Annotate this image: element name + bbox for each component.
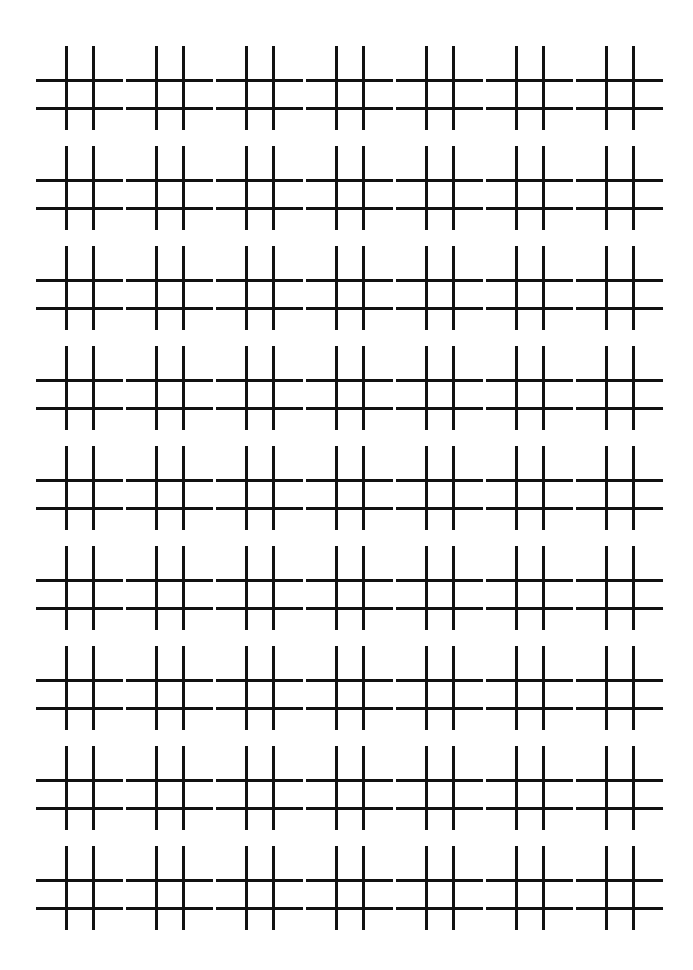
hash-vertical-stroke-1 xyxy=(605,246,608,330)
hash-vertical-stroke-2 xyxy=(362,446,365,530)
hash-vertical-stroke-2 xyxy=(542,446,545,530)
hash-horizontal-stroke-1 xyxy=(486,79,573,82)
hash-vertical-stroke-1 xyxy=(245,146,248,230)
hash-horizontal-stroke-2 xyxy=(576,607,663,610)
hash-horizontal-stroke-1 xyxy=(306,479,393,482)
hash-horizontal-stroke-2 xyxy=(576,407,663,410)
hash-vertical-stroke-1 xyxy=(425,346,428,430)
hash-glyph xyxy=(396,546,483,630)
hash-glyph xyxy=(36,346,123,430)
hash-vertical-stroke-1 xyxy=(605,146,608,230)
hash-horizontal-stroke-2 xyxy=(306,107,393,110)
hash-horizontal-stroke-1 xyxy=(306,179,393,182)
hash-horizontal-stroke-1 xyxy=(576,79,663,82)
hash-vertical-stroke-2 xyxy=(182,446,185,530)
hash-horizontal-stroke-1 xyxy=(396,179,483,182)
pattern-canvas xyxy=(0,0,693,970)
hash-horizontal-stroke-2 xyxy=(306,807,393,810)
hash-vertical-stroke-1 xyxy=(425,446,428,530)
hash-horizontal-stroke-2 xyxy=(486,807,573,810)
hash-vertical-stroke-2 xyxy=(92,146,95,230)
hash-vertical-stroke-2 xyxy=(272,646,275,730)
hash-horizontal-stroke-2 xyxy=(306,307,393,310)
hash-vertical-stroke-1 xyxy=(65,246,68,330)
hash-vertical-stroke-1 xyxy=(65,146,68,230)
hash-glyph xyxy=(126,46,213,130)
hash-vertical-stroke-2 xyxy=(542,546,545,630)
hash-horizontal-stroke-1 xyxy=(396,679,483,682)
hash-vertical-stroke-2 xyxy=(272,46,275,130)
hash-glyph xyxy=(576,846,663,930)
hash-horizontal-stroke-2 xyxy=(486,107,573,110)
hash-horizontal-stroke-2 xyxy=(126,607,213,610)
hash-horizontal-stroke-1 xyxy=(126,279,213,282)
hash-glyph xyxy=(126,646,213,730)
hash-glyph xyxy=(306,446,393,530)
hash-horizontal-stroke-1 xyxy=(306,379,393,382)
hash-vertical-stroke-2 xyxy=(182,646,185,730)
hash-glyph xyxy=(486,346,573,430)
hash-horizontal-stroke-2 xyxy=(576,207,663,210)
hash-horizontal-stroke-1 xyxy=(576,879,663,882)
hash-vertical-stroke-1 xyxy=(245,746,248,830)
hash-vertical-stroke-1 xyxy=(65,846,68,930)
hash-horizontal-stroke-1 xyxy=(396,579,483,582)
hash-horizontal-stroke-2 xyxy=(306,507,393,510)
hash-glyph xyxy=(396,246,483,330)
hash-vertical-stroke-1 xyxy=(515,446,518,530)
hash-vertical-stroke-2 xyxy=(92,846,95,930)
hash-horizontal-stroke-1 xyxy=(576,679,663,682)
hash-vertical-stroke-1 xyxy=(515,346,518,430)
hash-vertical-stroke-1 xyxy=(515,46,518,130)
hash-vertical-stroke-2 xyxy=(632,646,635,730)
hash-horizontal-stroke-2 xyxy=(36,207,123,210)
hash-horizontal-stroke-2 xyxy=(126,507,213,510)
hash-vertical-stroke-2 xyxy=(92,346,95,430)
hash-horizontal-stroke-2 xyxy=(576,707,663,710)
hash-vertical-stroke-1 xyxy=(605,46,608,130)
hash-horizontal-stroke-2 xyxy=(486,307,573,310)
hash-vertical-stroke-2 xyxy=(92,546,95,630)
hash-horizontal-stroke-1 xyxy=(306,279,393,282)
hash-vertical-stroke-1 xyxy=(515,546,518,630)
hash-horizontal-stroke-1 xyxy=(486,879,573,882)
hash-glyph xyxy=(216,746,303,830)
hash-horizontal-stroke-2 xyxy=(396,707,483,710)
hash-vertical-stroke-2 xyxy=(182,246,185,330)
hash-glyph xyxy=(36,746,123,830)
hash-horizontal-stroke-1 xyxy=(36,479,123,482)
hash-horizontal-stroke-1 xyxy=(216,579,303,582)
hash-horizontal-stroke-1 xyxy=(396,279,483,282)
hash-glyph xyxy=(216,146,303,230)
hash-horizontal-stroke-1 xyxy=(36,379,123,382)
hash-horizontal-stroke-2 xyxy=(576,907,663,910)
hash-vertical-stroke-1 xyxy=(245,546,248,630)
hash-vertical-stroke-1 xyxy=(65,646,68,730)
hash-horizontal-stroke-2 xyxy=(306,407,393,410)
hash-horizontal-stroke-1 xyxy=(216,79,303,82)
hash-horizontal-stroke-1 xyxy=(36,279,123,282)
hash-glyph xyxy=(396,346,483,430)
hash-vertical-stroke-2 xyxy=(362,746,365,830)
hash-vertical-stroke-2 xyxy=(182,346,185,430)
hash-horizontal-stroke-1 xyxy=(36,79,123,82)
hash-horizontal-stroke-2 xyxy=(126,807,213,810)
hash-glyph xyxy=(306,646,393,730)
hash-vertical-stroke-1 xyxy=(245,346,248,430)
hash-glyph xyxy=(396,746,483,830)
hash-glyph xyxy=(36,846,123,930)
hash-vertical-stroke-2 xyxy=(542,346,545,430)
hash-glyph xyxy=(216,646,303,730)
hash-horizontal-stroke-2 xyxy=(306,607,393,610)
hash-vertical-stroke-1 xyxy=(515,146,518,230)
hash-glyph xyxy=(216,446,303,530)
hash-vertical-stroke-2 xyxy=(272,246,275,330)
hash-glyph xyxy=(126,346,213,430)
hash-vertical-stroke-2 xyxy=(542,246,545,330)
hash-horizontal-stroke-1 xyxy=(216,879,303,882)
hash-vertical-stroke-2 xyxy=(182,846,185,930)
hash-glyph xyxy=(36,646,123,730)
hash-glyph xyxy=(36,446,123,530)
hash-horizontal-stroke-2 xyxy=(216,707,303,710)
hash-vertical-stroke-2 xyxy=(92,746,95,830)
